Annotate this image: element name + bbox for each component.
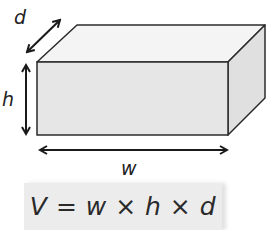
formula-box: V = w × h × d [24, 183, 222, 230]
width-label: w [121, 157, 137, 179]
top-face [37, 25, 265, 62]
height-label: h [2, 88, 14, 110]
depth-label: d [14, 6, 27, 28]
volume-formula: V = w × h × d [30, 192, 216, 221]
front-face [37, 62, 228, 135]
